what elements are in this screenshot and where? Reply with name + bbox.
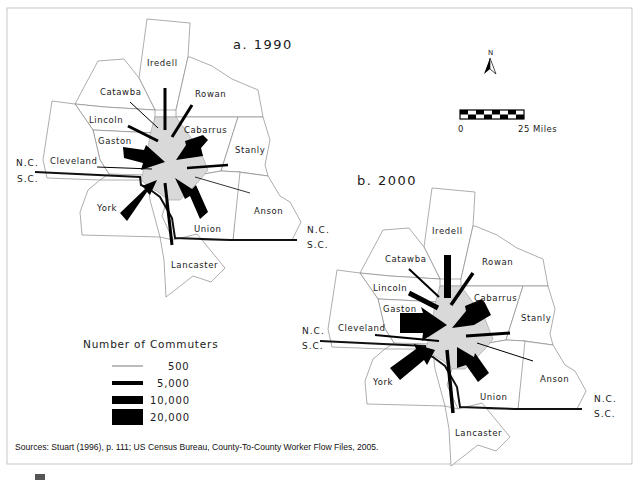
legend-value-500: 500 [168,361,190,372]
caption-fragment [35,474,45,480]
label-union-1990: Union [194,224,222,234]
legend-swatch-20000 [112,409,143,425]
label-anson-2000: Anson [540,374,569,384]
legend-swatch-5000 [112,381,143,385]
state-label-nc-west-1990: N.C. [16,158,39,168]
state-label-nc-west-2000: N.C. [302,326,325,336]
panel-title-1990: a. 1990 [233,37,293,52]
label-union-2000: Union [480,392,508,402]
label-cleveland-1990: Cleveland [50,156,98,166]
label-lancaster-2000: Lancaster [455,428,502,438]
label-lincoln-1990: Lincoln [89,115,123,125]
label-rowan-2000: Rowan [482,257,513,267]
label-gaston-2000: Gaston [383,304,417,314]
label-lancaster-1990: Lancaster [171,260,218,270]
label-gaston-1990: Gaston [98,136,132,146]
legend-swatch-10000 [112,396,143,404]
legend-value-20000: 20,000 [150,412,190,423]
label-cabarrus-2000: Cabarrus [474,293,517,303]
label-catawba-2000: Catawba [385,254,426,264]
scale-bar: 0 25 Miles [458,110,557,134]
state-label-sc-east-2000: S.C. [594,409,616,419]
panel-title-2000: b. 2000 [357,173,417,188]
label-stanly-2000: Stanly [521,313,551,323]
state-label-sc-west-1990: S.C. [17,174,39,184]
map-panel-1990: a. 1990 Iredell Catawba Rowan Lincoln Ca… [16,19,330,297]
label-rowan-1990: Rowan [195,89,226,99]
flow-iredell [444,255,451,298]
state-label-sc-east-1990: S.C. [307,240,329,250]
label-stanly-1990: Stanly [235,145,265,155]
state-label-nc-east-2000: N.C. [594,394,617,404]
legend-value-10000: 10,000 [150,395,190,406]
legend: Number of Commuters 500 5,000 10,000 20,… [83,338,218,425]
label-anson-1990: Anson [254,206,283,216]
scale-start-label: 0 [458,124,463,134]
state-label-sc-west-2000: S.C. [302,341,324,351]
label-lincoln-2000: Lincoln [373,283,407,293]
scale-end-label: 25 Miles [518,124,557,134]
legend-title: Number of Commuters [83,338,218,350]
legend-value-5000: 5,000 [157,378,190,389]
source-note: Sources: Stuart (1996), p. 111; US Censu… [15,442,379,452]
north-label: N [488,49,493,57]
north-arrow: N [484,49,496,74]
commuter-flow-map-figure: a. 1990 Iredell Catawba Rowan Lincoln Ca… [0,0,635,480]
label-cleveland-2000: Cleveland [338,323,386,333]
state-label-nc-east-1990: N.C. [307,225,330,235]
label-cabarrus-1990: Cabarrus [184,125,227,135]
label-york-1990: York [96,203,117,213]
label-york-2000: York [372,377,393,387]
label-iredell-2000: Iredell [432,226,463,236]
map-panel-2000: b. 2000 Iredell Catawba Rowan Lincoln Ca… [302,173,617,466]
label-catawba-1990: Catawba [100,87,141,97]
label-iredell-1990: Iredell [147,58,178,68]
